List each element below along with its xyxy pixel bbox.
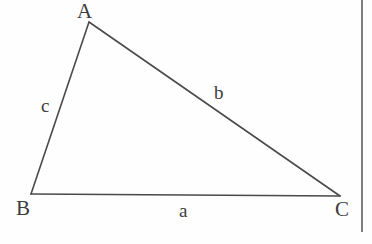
- side-label-c: c: [41, 96, 49, 115]
- side-a-line: [31, 194, 340, 196]
- side-b-line: [89, 22, 340, 196]
- vertex-label-a: A: [77, 1, 92, 22]
- side-label-b: b: [214, 83, 224, 102]
- vertical-divider-rule: [361, 0, 363, 232]
- vertex-label-c: C: [335, 199, 349, 220]
- vertex-label-b: B: [16, 198, 30, 219]
- side-label-a: a: [179, 201, 187, 220]
- side-c-line: [31, 22, 89, 194]
